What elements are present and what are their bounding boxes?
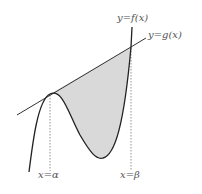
label-alpha: x=α	[38, 170, 59, 180]
label-f-curve: y=f(x)	[117, 13, 148, 23]
label-beta: x=β	[120, 170, 140, 180]
diagram-canvas: y=f(x) y=g(x) x=α x=β	[0, 0, 202, 194]
shaded-area	[50, 47, 131, 158]
label-g-line: y=g(x)	[148, 30, 182, 40]
